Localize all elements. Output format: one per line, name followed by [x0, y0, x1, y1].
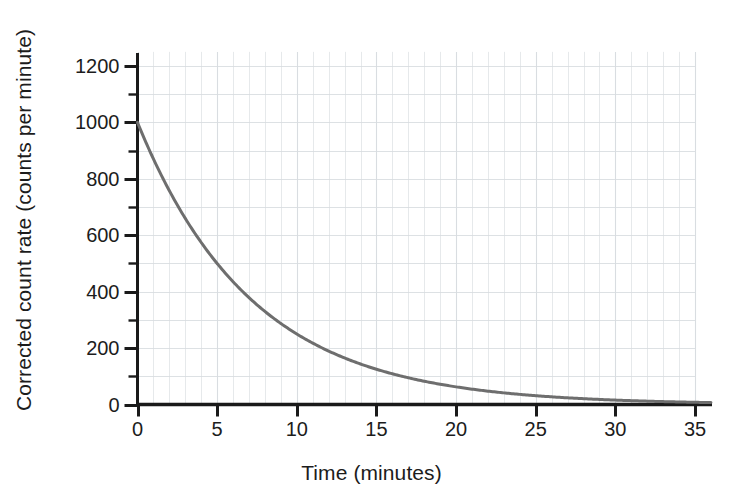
horizontal-minor-gridlines: [138, 67, 696, 406]
x-axis-tick-label: 5: [212, 418, 223, 441]
y-axis-tick-label: 0: [40, 393, 120, 416]
y-axis-tick-label: 400: [40, 280, 120, 303]
y-axis-tick-label: 200: [40, 337, 120, 360]
x-axis-title: Time (minutes): [0, 461, 743, 485]
y-axis-tick-label: 600: [40, 224, 120, 247]
x-axis-tick-label: 20: [445, 418, 467, 441]
x-axis-ticks: [139, 405, 696, 417]
axis-lines: [136, 53, 712, 405]
y-axis-tick-label: 800: [40, 167, 120, 190]
x-axis-tick-label: 35: [684, 418, 706, 441]
x-axis-tick-label: 0: [132, 418, 143, 441]
y-axis-tick-label: 1000: [40, 111, 120, 134]
y-axis-tick-label: 1200: [40, 55, 120, 78]
vertical-minor-gridlines: [139, 52, 696, 405]
y-axis-title-container: Corrected count rate (counts per minute): [0, 0, 48, 440]
x-axis-tick-label: 25: [525, 418, 547, 441]
y-axis-title: Corrected count rate (counts per minute): [12, 29, 36, 411]
chart-container: 020040060080010001200 05101520253035 Cor…: [0, 0, 743, 504]
x-axis-tick-label: 10: [286, 418, 308, 441]
x-axis-tick-label: 30: [604, 418, 626, 441]
x-axis-tick-label: 15: [365, 418, 387, 441]
y-axis-ticks: [125, 67, 138, 406]
